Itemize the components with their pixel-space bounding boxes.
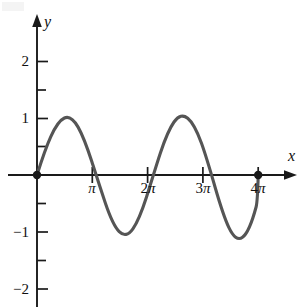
- x-tick-3pi-prefix: 3: [195, 180, 203, 196]
- x-tick-3pi-symbol: π: [203, 180, 211, 196]
- y-tick-label-1: 1: [5, 111, 29, 126]
- x-axis-label: x: [288, 148, 295, 164]
- endpoint-dot-origin: [33, 171, 41, 179]
- x-tick-4pi-symbol: π: [258, 180, 266, 196]
- x-tick-label-4pi: 4π: [242, 181, 274, 196]
- y-tick-label-minus-1: −1: [2, 225, 29, 240]
- y-tick-label-2: 2: [5, 54, 29, 69]
- x-tick-label-2pi: 2π: [132, 181, 164, 196]
- x-tick-4pi-prefix: 4: [250, 180, 258, 196]
- x-tick-label-pi: π: [78, 181, 106, 196]
- graph-figure: y x 2 1 −1 −2 π 2π 3π 4π: [0, 0, 298, 307]
- y-axis-arrowhead: [32, 14, 42, 27]
- y-axis-label: y: [44, 14, 51, 30]
- x-tick-2pi-prefix: 2: [140, 180, 148, 196]
- sine-graph-plot: [0, 0, 298, 307]
- y-tick-label-minus-2: −2: [2, 282, 29, 297]
- x-tick-2pi-symbol: π: [148, 180, 156, 196]
- x-tick-label-3pi: 3π: [187, 181, 219, 196]
- endpoint-dot-4pi: [254, 171, 262, 179]
- x-tick-pi-symbol: π: [88, 180, 96, 196]
- x-axis-arrowhead: [284, 170, 297, 180]
